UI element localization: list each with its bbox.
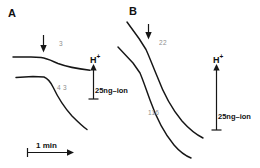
panel-b-lower-trace-value: 116 — [148, 110, 159, 117]
panel-a-upper-trace — [13, 57, 90, 70]
panel-a-stimulus-arrow-icon — [40, 35, 46, 53]
panel-a-h-ion-axis-label: H+ — [90, 56, 100, 65]
panel-b-upper-trace-value: 22 — [159, 40, 167, 47]
figure-panel-container: A B — [0, 0, 260, 168]
panel-a-lower-trace — [16, 77, 87, 130]
time-scale-label: 1 min — [36, 142, 57, 150]
panel-label-b: B — [129, 6, 137, 17]
panel-a-scale-magnitude-label: 25ng–ion — [95, 87, 128, 95]
panel-b-stimulus-arrow-icon — [145, 24, 151, 40]
panel-b-h-ion-axis-label: H+ — [213, 56, 223, 65]
panel-b-lower-trace — [118, 47, 191, 158]
panel-a-lower-trace-value: 4 3 — [57, 85, 67, 92]
panel-a-h-charge-superscript: + — [97, 53, 101, 60]
panel-b-h-charge-superscript: + — [220, 53, 224, 60]
panel-label-a: A — [8, 8, 16, 19]
panel-a-upper-trace-value: 3 — [59, 41, 63, 48]
panel-b-scale-magnitude-label: 25ng–ion — [218, 113, 251, 121]
